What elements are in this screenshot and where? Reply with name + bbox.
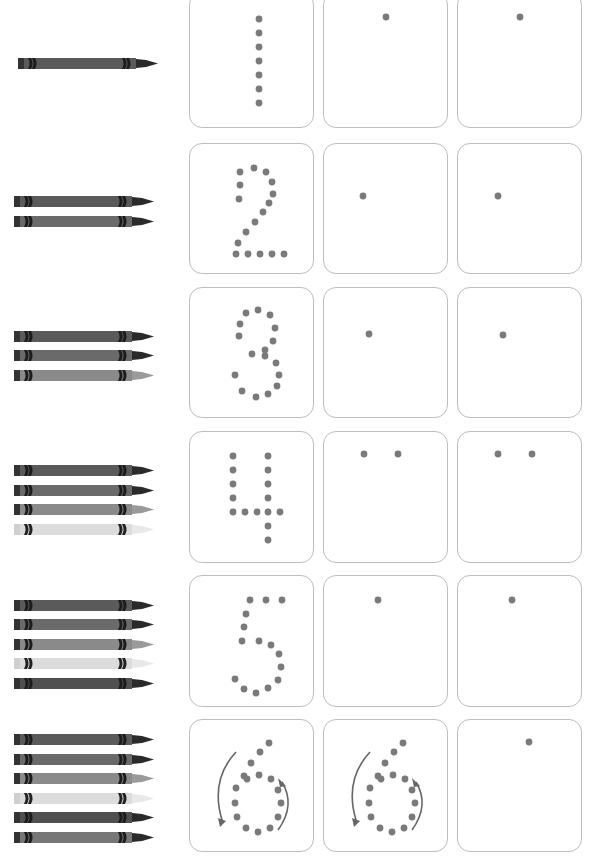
practice-box-1-1[interactable] xyxy=(323,0,448,128)
trace-dot xyxy=(263,597,270,604)
trace-dot xyxy=(279,597,286,604)
trace-dot xyxy=(253,394,260,401)
trace-dot xyxy=(272,325,279,332)
practice-box-2-1[interactable] xyxy=(323,143,448,274)
crayon-icon xyxy=(14,616,156,627)
trace-dot xyxy=(495,193,502,200)
trace-dot xyxy=(262,353,269,360)
trace-dot xyxy=(526,739,533,746)
trace-dot xyxy=(276,372,283,379)
trace-dot xyxy=(273,360,280,367)
trace-dot xyxy=(256,772,263,779)
trace-dot xyxy=(269,251,276,258)
trace-dot xyxy=(234,814,241,821)
trace-dot xyxy=(230,481,237,488)
trace-dot xyxy=(245,251,252,258)
trace-dot xyxy=(265,509,272,516)
trace-dot xyxy=(366,800,373,807)
trace-dot xyxy=(244,776,251,783)
crayon-icon xyxy=(14,790,156,801)
crayon-icon xyxy=(14,347,156,358)
trace-dot xyxy=(389,829,396,836)
crayon-icon xyxy=(14,482,156,493)
practice-box-4-1[interactable] xyxy=(323,431,448,563)
crayon-icon xyxy=(14,675,156,686)
trace-dot xyxy=(390,772,397,779)
trace-dot xyxy=(256,30,263,37)
practice-box-5-1[interactable] xyxy=(323,575,448,707)
trace-dot xyxy=(257,251,264,258)
crayon-icon xyxy=(14,328,156,339)
trace-dot xyxy=(265,495,272,502)
trace-dot xyxy=(243,611,250,618)
practice-box-5-2[interactable] xyxy=(457,575,582,707)
practice-box-4-2[interactable] xyxy=(457,431,582,563)
crayon-icon xyxy=(14,636,156,647)
trace-dot xyxy=(239,638,246,645)
trace-dot xyxy=(391,749,398,756)
trace-dot xyxy=(243,229,250,236)
trace-dot xyxy=(382,760,389,767)
practice-box-3-1[interactable] xyxy=(323,287,448,418)
trace-dot xyxy=(242,509,249,516)
crayon-icon xyxy=(14,829,156,840)
trace-dot xyxy=(266,740,273,747)
trace-box-number-4[interactable] xyxy=(189,431,314,563)
crayon-icon xyxy=(14,731,156,742)
trace-dot xyxy=(265,467,272,474)
trace-dot xyxy=(237,321,244,328)
trace-dot xyxy=(257,749,264,756)
crayon-icon xyxy=(14,770,156,781)
trace-dot xyxy=(265,685,272,692)
trace-dot xyxy=(256,72,263,79)
crayon-icon xyxy=(14,597,156,608)
trace-dot xyxy=(368,814,375,821)
trace-dot xyxy=(367,785,374,792)
trace-box-number-6[interactable] xyxy=(189,719,314,852)
trace-dot xyxy=(233,251,240,258)
trace-dot xyxy=(249,351,256,358)
trace-dot xyxy=(265,537,272,544)
trace-dot xyxy=(268,776,275,783)
trace-dot xyxy=(409,787,416,794)
trace-dot xyxy=(256,100,263,107)
trace-dot xyxy=(232,800,239,807)
practice-box-3-2[interactable] xyxy=(457,287,582,418)
crayon-icon xyxy=(14,193,156,204)
trace-dot xyxy=(402,776,409,783)
trace-dot xyxy=(412,800,419,807)
trace-dot xyxy=(400,740,407,747)
trace-dot xyxy=(275,814,282,821)
trace-box-number-1[interactable] xyxy=(189,0,314,128)
practice-box-6-1[interactable] xyxy=(323,719,448,852)
trace-dot xyxy=(252,219,259,226)
crayon-icon xyxy=(14,367,156,378)
trace-dot xyxy=(235,240,242,247)
trace-dot xyxy=(275,787,282,794)
practice-box-1-2[interactable] xyxy=(457,0,582,128)
crayon-icon xyxy=(14,501,156,512)
practice-box-6-2[interactable] xyxy=(457,719,582,852)
trace-dot xyxy=(281,251,288,258)
trace-box-number-3[interactable] xyxy=(189,287,314,418)
trace-dot xyxy=(265,391,272,398)
trace-dot xyxy=(375,597,382,604)
crayon-icon xyxy=(14,462,156,473)
trace-dot xyxy=(241,624,248,631)
trace-dot xyxy=(230,453,237,460)
trace-box-number-5[interactable] xyxy=(189,575,314,707)
trace-dot xyxy=(265,523,272,530)
trace-dot xyxy=(256,58,263,65)
trace-dot xyxy=(265,481,272,488)
trace-dot xyxy=(268,642,275,649)
trace-dot xyxy=(265,453,272,460)
trace-dot xyxy=(401,825,408,832)
practice-box-2-2[interactable] xyxy=(457,143,582,274)
trace-dot xyxy=(241,686,248,693)
trace-dot xyxy=(395,451,402,458)
trace-box-number-2[interactable] xyxy=(189,143,314,274)
trace-dot xyxy=(267,825,274,832)
trace-dot xyxy=(256,638,263,645)
crayon-icon xyxy=(14,809,156,820)
trace-dot xyxy=(254,509,261,516)
